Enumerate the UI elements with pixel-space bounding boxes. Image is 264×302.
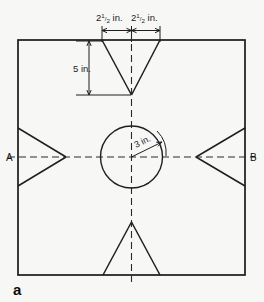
dimension-label-top-right: 21/2 in. bbox=[131, 12, 158, 24]
point-label-a: A bbox=[6, 152, 13, 163]
figure-caption-letter: a bbox=[13, 281, 22, 298]
point-label-b: B bbox=[250, 152, 257, 163]
dimension-label-depth: 5 in. bbox=[73, 63, 91, 74]
technical-drawing-figure: 21/2 in. 21/2 in. 5 in. bbox=[0, 0, 264, 302]
dimension-label-top-left: 21/2 in. bbox=[96, 12, 123, 24]
drawing-canvas: 21/2 in. 21/2 in. 5 in. bbox=[0, 0, 264, 302]
